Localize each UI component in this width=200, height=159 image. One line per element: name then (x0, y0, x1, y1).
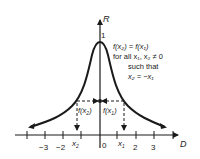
f-x1-label: f(x1) (103, 106, 117, 116)
annotation-line-3: such that (128, 62, 159, 71)
annotation-line-4: x₂ = −x₁ (127, 72, 154, 81)
horizontal-axis-label: D (180, 139, 187, 149)
tick-label-2: 2 (133, 143, 138, 152)
annotation-block: f(x₂) = f(x₁) for all x₁, x₂ ≠ 0 such th… (113, 42, 163, 81)
peak-value-label: 1 (101, 31, 106, 40)
vertical-axis-label: R (103, 14, 110, 24)
tick-label-neg2: −2 (56, 143, 66, 152)
annotation-line-1: f(x₂) = f(x₁) (113, 42, 149, 51)
curve-left-arrow-icon (28, 123, 35, 129)
intersection-point (98, 99, 102, 103)
x1-label: x1 (117, 139, 125, 149)
tick-label-neg3: −3 (39, 143, 49, 152)
even-function-diagram: R D 1 −3 −2 0 2 3 x2 x1 f(x2) f(x1) f(x₂… (0, 0, 200, 159)
f-x2-label: f(x2) (78, 106, 92, 116)
annotation-line-2: for all x₁, x₂ ≠ 0 (113, 52, 163, 61)
curve-right-arrow-icon (160, 123, 167, 129)
tick-label-3: 3 (151, 143, 156, 152)
x2-label: x2 (71, 139, 79, 149)
tick-label-0: 0 (102, 141, 107, 150)
